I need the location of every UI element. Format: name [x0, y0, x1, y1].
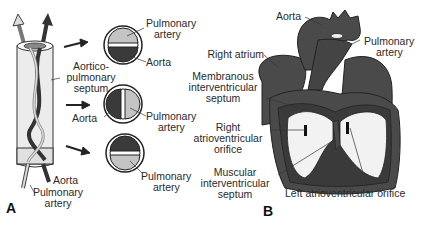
- arrows: [64, 39, 90, 155]
- label-aorta-tube: Aorta: [53, 175, 78, 186]
- cross-section-bottom: [106, 134, 144, 172]
- label-right-atrium: Right atrium: [200, 49, 264, 60]
- label-aorticopulmonary-septum: Aortico- pulmonary septum: [60, 61, 122, 94]
- panel-letter-a: A: [6, 200, 16, 216]
- label-aorta-middle: Aorta: [72, 113, 97, 124]
- label-right-atrioventricular-orifice: Right atrioventricular orifice: [188, 122, 268, 155]
- truncus-arteriosus-tube: [13, 13, 53, 188]
- label-pulmonary-artery-top: Pulmonary artery: [146, 18, 196, 40]
- label-left-atrioventricular-orifice: Left atrioventricular orifice: [285, 188, 405, 199]
- label-pulmonary-artery: Pulmonary artery: [364, 36, 414, 58]
- label-aorta-top: Aorta: [146, 57, 171, 68]
- label-pulmonary-artery-tube: Pulmonary artery: [30, 187, 86, 209]
- panel-letter-b: B: [263, 203, 273, 219]
- label-aorta: Aorta: [276, 11, 301, 22]
- label-pulmonary-artery-bottom: Pulmonary artery: [141, 171, 191, 193]
- label-membranous-septum: Membranous interventricular septum: [183, 71, 263, 104]
- label-muscular-septum: Muscular interventricular septum: [195, 167, 275, 200]
